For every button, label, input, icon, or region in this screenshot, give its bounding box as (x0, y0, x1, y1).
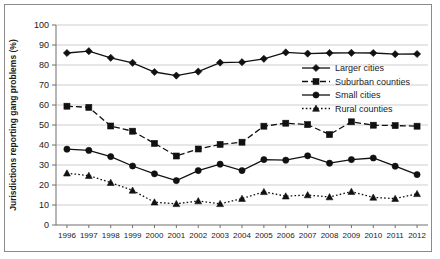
legend-label: Rural counties (335, 104, 393, 114)
x-axis-tick-label: 1996 (58, 231, 76, 240)
line-chart: 0102030405060708090100199619971998199920… (0, 0, 440, 259)
data-point (239, 168, 245, 174)
data-point (217, 161, 223, 167)
data-point (327, 132, 333, 138)
data-point (86, 104, 92, 110)
data-point (283, 157, 289, 163)
x-axis-tick-label: 2006 (277, 231, 295, 240)
x-axis-tick-label: 2010 (364, 231, 382, 240)
data-point (108, 123, 114, 129)
x-axis-tick-label: 2012 (408, 231, 426, 240)
data-point (392, 163, 398, 169)
x-axis-tick-label: 1998 (102, 231, 120, 240)
y-axis-tick-label: 20 (39, 180, 49, 190)
data-point (151, 140, 157, 146)
data-point (151, 68, 158, 75)
data-point (195, 198, 202, 204)
data-point (217, 141, 223, 147)
x-axis-tick-label: 2001 (167, 231, 185, 240)
data-point (348, 119, 354, 125)
y-axis-tick-label: 30 (39, 160, 49, 170)
data-point (326, 49, 333, 56)
y-axis-title: Jurisdictions reporting gang problems (%… (8, 39, 18, 211)
data-point (392, 51, 399, 58)
x-axis-tick-label: 2009 (343, 231, 361, 240)
data-point (64, 103, 70, 109)
x-axis-tick-label: 2005 (255, 231, 273, 240)
data-point (64, 170, 71, 176)
legend-marker (312, 64, 319, 71)
data-point (305, 122, 311, 128)
x-axis-tick-label: 1999 (124, 231, 142, 240)
y-axis-tick-label: 0 (44, 220, 49, 230)
x-axis-tick-label: 2002 (189, 231, 207, 240)
data-point (130, 128, 136, 134)
data-point (260, 55, 267, 62)
data-point (108, 154, 114, 160)
data-point (64, 146, 70, 152)
y-axis-tick-label: 50 (39, 120, 49, 130)
legend-marker (313, 92, 319, 98)
data-point (413, 50, 420, 57)
x-axis-tick-label: 2004 (233, 231, 251, 240)
data-point (370, 155, 376, 161)
data-point (195, 68, 202, 75)
data-point (392, 123, 398, 129)
x-axis-tick-label: 1997 (80, 231, 98, 240)
data-point (173, 200, 180, 206)
data-point (195, 168, 201, 174)
data-point (326, 160, 332, 166)
data-point (414, 123, 420, 129)
data-point (414, 172, 420, 178)
data-point (195, 146, 201, 152)
data-point (370, 122, 376, 128)
data-point (239, 139, 245, 145)
y-axis-tick-label: 10 (39, 200, 49, 210)
data-point (282, 49, 289, 56)
x-axis-tick-label: 2000 (146, 231, 164, 240)
y-axis-tick-label: 70 (39, 80, 49, 90)
data-point (261, 157, 267, 163)
data-point (107, 54, 114, 61)
legend-label: Small cities (335, 90, 381, 100)
data-point (370, 194, 377, 200)
legend-item-small-cities[interactable]: Small cities (302, 90, 381, 100)
legend-label: Larger cities (335, 63, 385, 73)
data-point (305, 153, 311, 159)
y-axis-tick-label: 40 (39, 140, 49, 150)
data-point (326, 194, 333, 200)
data-point (86, 147, 92, 153)
y-axis-tick-label: 80 (39, 60, 49, 70)
data-point (129, 163, 135, 169)
chart-svg: 0102030405060708090100199619971998199920… (0, 0, 440, 259)
x-axis-tick-label: 2008 (321, 231, 339, 240)
legend-label: Suburban counties (335, 77, 411, 87)
data-point (261, 123, 267, 129)
series-rural-counties (64, 170, 421, 207)
data-point (304, 50, 311, 57)
data-point (414, 190, 421, 196)
x-axis-tick-label: 2011 (387, 231, 405, 240)
data-point (348, 188, 355, 194)
data-point (151, 171, 157, 177)
data-point (348, 157, 354, 163)
data-point (348, 49, 355, 56)
data-point (173, 178, 179, 184)
data-point (173, 153, 179, 159)
legend-marker (313, 79, 319, 85)
y-axis-tick-label: 90 (39, 40, 49, 50)
x-axis-tick-label: 2003 (211, 231, 229, 240)
legend-item-rural-counties[interactable]: Rural counties (302, 104, 393, 114)
y-axis-tick-label: 100 (34, 20, 49, 30)
data-point (63, 49, 70, 56)
data-point (283, 120, 289, 126)
data-point (370, 49, 377, 56)
data-point (173, 72, 180, 79)
data-point (260, 188, 267, 194)
data-point (85, 48, 92, 55)
x-axis-tick-label: 2007 (299, 231, 317, 240)
y-axis-tick-label: 60 (39, 100, 49, 110)
